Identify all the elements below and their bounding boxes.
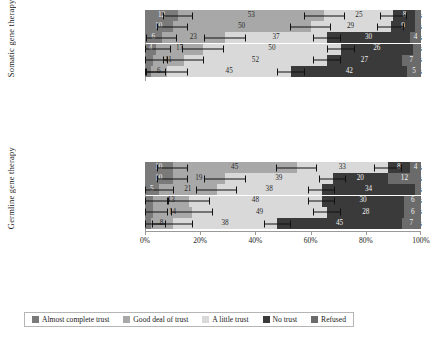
bar-segment: 12 xyxy=(388,173,421,184)
bar-row: 1050299 xyxy=(145,21,421,32)
legend-item: No trust xyxy=(263,315,298,324)
error-bar xyxy=(196,184,237,195)
x-axis-tick xyxy=(311,232,312,235)
panel-somatic: Somatic gene therapyDoctors & medical ex… xyxy=(0,10,426,85)
error-bar xyxy=(157,21,187,32)
bar-row: 62337304 xyxy=(145,32,421,43)
bar-row: 838457 xyxy=(145,218,421,229)
error-bar xyxy=(145,196,168,207)
bar-row: 5213834 xyxy=(145,184,421,195)
bar-segment-value: 34 xyxy=(365,186,372,193)
error-bar xyxy=(145,184,174,195)
bar-segment-value: 45 xyxy=(226,68,233,75)
bar-segment-value: 26 xyxy=(373,45,380,52)
bar-segment: 4 xyxy=(410,162,421,173)
bar-segment-value: 21 xyxy=(184,186,191,193)
error-bar xyxy=(146,32,176,43)
error-bar xyxy=(313,55,341,66)
x-axis-tick-label: 80% xyxy=(359,236,373,245)
bar-segment: 5 xyxy=(407,66,421,77)
bar-segment: 7 xyxy=(402,55,421,66)
bar-segment-value: 4 xyxy=(414,164,418,171)
x-axis-tick-label: 60% xyxy=(304,236,318,245)
bar-segment xyxy=(415,184,421,195)
x-axis: 0%20%40%60%80%100% xyxy=(145,231,421,232)
bar-segment-value: 6 xyxy=(411,197,415,204)
legend-label: Almost complete trust xyxy=(42,315,110,324)
bar-segment-value: 12 xyxy=(401,175,408,182)
error-bar xyxy=(152,218,193,229)
bar-row: 1348306 xyxy=(145,196,421,207)
error-bar xyxy=(204,173,245,184)
bar-segment-value: 42 xyxy=(346,68,353,75)
x-axis-tick xyxy=(255,232,256,235)
bar-segment: 53 xyxy=(178,10,324,21)
error-bar xyxy=(146,66,187,77)
bar-segment: 6 xyxy=(404,207,421,218)
x-axis-tick-label: 40% xyxy=(249,236,263,245)
error-bar xyxy=(276,162,317,173)
bar-segment-value: 7 xyxy=(410,57,414,64)
bar-segment-value: 39 xyxy=(275,175,282,182)
bar-segment-value: 50 xyxy=(238,23,245,30)
error-bar xyxy=(163,55,204,66)
bar-segment-value: 52 xyxy=(252,57,259,64)
bar-segment: 6 xyxy=(404,196,421,207)
legend-swatch-icon xyxy=(311,316,318,323)
bar-segment-value: 5 xyxy=(412,68,416,75)
error-bar xyxy=(157,173,187,184)
bar-segment-value: 7 xyxy=(410,220,414,227)
bar-segment-value: 50 xyxy=(268,45,275,52)
legend-swatch-icon xyxy=(123,316,130,323)
bar-segment-value: 45 xyxy=(336,220,343,227)
error-bar xyxy=(182,44,223,55)
bar-segment-value: 29 xyxy=(347,23,354,30)
bar-segment: 45 xyxy=(277,218,401,229)
bar-row: 645425 xyxy=(145,66,421,77)
legend-swatch-icon xyxy=(263,316,270,323)
bar-segment xyxy=(415,10,421,21)
error-bar xyxy=(277,66,305,77)
bar-segment-value: 27 xyxy=(361,57,368,64)
bar-segment-value: 38 xyxy=(221,220,228,227)
error-bar xyxy=(308,196,336,207)
bar-segment: 42 xyxy=(291,66,407,77)
legend-label: Good deal of trust xyxy=(133,315,188,324)
bar-segment: 52 xyxy=(184,55,328,66)
bar-segment-value: 20 xyxy=(357,175,364,182)
error-bar xyxy=(145,44,171,55)
bar-row: 1019392012 xyxy=(145,173,421,184)
bar-segment-value: 33 xyxy=(339,164,346,171)
bar-segment: 4 xyxy=(410,32,421,43)
x-axis-tick-label: 0% xyxy=(140,236,150,245)
error-bar xyxy=(145,207,168,218)
bar-segment: 50 xyxy=(203,44,341,55)
panel-germline: Germline gene therapyDoctors & medical e… xyxy=(0,162,426,237)
bar-segment-value: 48 xyxy=(252,197,259,204)
bar-segment-value: 6 xyxy=(411,209,415,216)
error-bar xyxy=(290,21,331,32)
bar-segment-value: 38 xyxy=(266,186,273,193)
bar-segment-value: 23 xyxy=(190,34,197,41)
x-axis-tick xyxy=(420,232,421,235)
legend-label: A little trust xyxy=(212,315,248,324)
legend-item: Refused xyxy=(311,315,346,324)
bar-segment: 7 xyxy=(402,218,421,229)
panel-group-label: Somatic gene therapy xyxy=(6,10,16,77)
bar-segment-value: 53 xyxy=(248,12,255,19)
bar-segment-value: 45 xyxy=(231,164,238,171)
legend-label: No trust xyxy=(273,315,298,324)
error-bar xyxy=(380,10,408,21)
bar-segment-value: 30 xyxy=(365,34,372,41)
bar-segment-value: 30 xyxy=(359,197,366,204)
bar-segment-value: 4 xyxy=(414,34,418,41)
bar-row: 4175026 xyxy=(145,44,421,55)
error-bar xyxy=(304,10,345,21)
error-bar xyxy=(171,207,212,218)
error-bar xyxy=(377,21,405,32)
x-axis-tick-label: 100% xyxy=(412,236,430,245)
chart-legend: Almost complete trustGood deal of trustA… xyxy=(24,312,354,327)
error-bar xyxy=(163,10,193,21)
legend-swatch-icon xyxy=(32,316,39,323)
error-bar xyxy=(168,196,209,207)
